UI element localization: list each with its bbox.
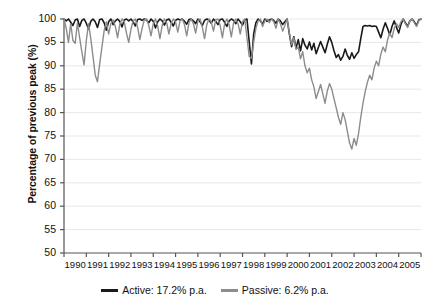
y-axis-tick-label: 55 [32, 223, 56, 235]
series-line-passive [64, 19, 421, 149]
y-axis-tick-label: 85 [32, 82, 56, 94]
chart-legend: Active: 17.2% p.a.Passive: 6.2% p.a. [0, 284, 430, 296]
legend-label: Passive: 6.2% p.a. [242, 284, 329, 296]
legend-line-swatch [221, 289, 238, 292]
y-axis-tick-label: 60 [32, 199, 56, 211]
gridlines [64, 19, 421, 230]
legend-line-swatch [101, 289, 118, 292]
y-axis-tick-label: 95 [32, 35, 56, 47]
chart-container: Percentage of previous peak (%) 50556065… [0, 0, 430, 307]
y-axis-tick-label: 100 [32, 12, 56, 24]
y-axis-tick-label: 70 [32, 152, 56, 164]
data-series-group [64, 19, 421, 149]
legend-item-passive[interactable]: Passive: 6.2% p.a. [221, 284, 329, 296]
y-axis-tick-label: 90 [32, 59, 56, 71]
legend-item-active[interactable]: Active: 17.2% p.a. [101, 284, 207, 296]
y-axis-tick-label: 50 [32, 246, 56, 258]
y-axis-tick-label: 75 [32, 129, 56, 141]
y-axis-tick-label: 80 [32, 106, 56, 118]
y-axis-tick-label: 65 [32, 176, 56, 188]
legend-label: Active: 17.2% p.a. [122, 284, 207, 296]
x-axis-ticks [64, 253, 421, 257]
series-line-active [64, 19, 421, 64]
x-axis-tick-label: 2005 [395, 259, 425, 270]
